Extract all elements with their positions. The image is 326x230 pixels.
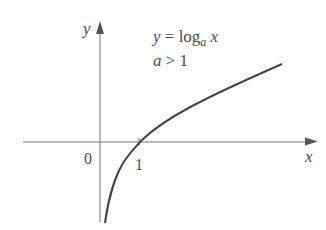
condition-label: a > 1 (153, 51, 188, 70)
y-axis-arrow-icon (96, 21, 104, 34)
x-axis-arrow-icon (305, 138, 318, 146)
log-graph: y x 0 1 y = loga x a > 1 (0, 0, 326, 230)
origin-label: 0 (84, 150, 92, 167)
log-curve (105, 64, 282, 223)
y-axis-label: y (81, 19, 91, 38)
equation-label: y = loga x (151, 27, 219, 49)
x-axis-label: x (304, 147, 313, 166)
tick-label-1: 1 (135, 156, 143, 173)
